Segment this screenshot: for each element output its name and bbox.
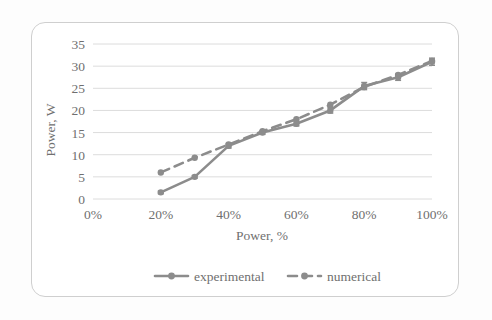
data-point-numerical — [327, 101, 333, 107]
data-point-experimental — [293, 121, 299, 127]
data-point-experimental — [361, 83, 367, 89]
y-tick-label: 5 — [78, 170, 85, 185]
chart-canvas: 05101520253035 0%20%40%60%80%100% Power,… — [0, 0, 492, 320]
data-point-numerical — [192, 155, 198, 161]
x-tick-label: 80% — [352, 207, 377, 222]
chart-svg: 05101520253035 0%20%40%60%80%100% Power,… — [0, 0, 492, 320]
x-tick-label: 40% — [216, 207, 241, 222]
y-tick-label: 30 — [72, 59, 86, 74]
data-point-experimental — [395, 74, 401, 80]
x-tick-label: 20% — [148, 207, 173, 222]
x-tick-label: 100% — [416, 207, 448, 222]
x-tick-label: 60% — [284, 207, 309, 222]
figure-container: 05101520253035 0%20%40%60%80%100% Power,… — [0, 0, 492, 320]
data-point-experimental — [192, 174, 198, 180]
y-tick-label: 35 — [72, 37, 86, 52]
x-axis-title: Power, % — [236, 228, 288, 243]
x-axis-tick-labels: 0%20%40%60%80%100% — [84, 207, 448, 222]
y-tick-label: 25 — [72, 81, 86, 96]
data-point-experimental — [429, 59, 435, 65]
data-point-experimental — [327, 107, 333, 113]
y-tick-label: 20 — [72, 103, 86, 118]
legend-marker-experimental — [168, 273, 175, 280]
gridlines-group — [93, 44, 432, 199]
legend-label-experimental: experimental — [194, 269, 265, 284]
x-tick-label: 0% — [84, 207, 102, 222]
series-numerical — [158, 58, 436, 176]
y-axis-title: Power, W — [43, 103, 58, 156]
data-point-numerical — [158, 169, 164, 175]
y-axis-tick-labels: 05101520253035 — [72, 37, 86, 207]
data-point-experimental — [158, 189, 164, 195]
chart-legend: experimental numerical — [155, 269, 381, 284]
series-path-experimental — [161, 62, 432, 193]
legend-marker-numerical — [301, 273, 308, 280]
series-experimental — [158, 58, 436, 195]
data-point-experimental — [225, 143, 231, 149]
data-point-experimental — [259, 129, 265, 135]
y-tick-label: 10 — [72, 148, 86, 163]
y-tick-label: 0 — [78, 192, 85, 207]
legend-label-numerical: numerical — [327, 269, 381, 284]
y-tick-label: 15 — [72, 126, 86, 141]
